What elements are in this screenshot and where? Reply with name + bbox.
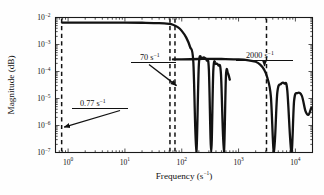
chart-canvas: 10010110210310410−210−310−410−510−610−7F…: [0, 0, 324, 195]
y-tick-label-3: 10−5: [37, 93, 51, 103]
y-tick-exponent: −3: [45, 39, 51, 45]
x-tick-label-2: 102: [177, 156, 188, 166]
x-tick-label-3: 103: [233, 156, 244, 166]
annotation-077-exponent: −1: [100, 98, 106, 104]
y-tick-label-5: 10−7: [37, 147, 51, 157]
x-tick-exponent: 0: [71, 156, 74, 162]
x-tick-exponent: 3: [241, 156, 244, 162]
annotation-70-exponent: −1: [153, 52, 159, 58]
x-tick-exponent: 2: [184, 156, 187, 162]
plot-frame: [56, 18, 313, 153]
annotation-2000-exponent: −1: [268, 50, 274, 56]
y-tick-exponent: −6: [45, 120, 51, 126]
x-axis-title: Frequency (s−1): [156, 170, 213, 181]
x-axis-title-tail: ): [209, 171, 212, 181]
x-tick-label-1: 101: [120, 156, 131, 166]
bode-magnitude-figure: 10010110210310410−210−310−410−510−610−7F…: [0, 0, 324, 195]
y-tick-label-4: 10−6: [37, 120, 51, 130]
y-tick-exponent: −4: [45, 66, 51, 72]
x-tick-exponent: 4: [298, 156, 301, 162]
y-tick-label-1: 10−3: [37, 39, 51, 49]
x-tick-label-0: 100: [63, 156, 74, 166]
y-axis-title: Magnitude (dB): [6, 56, 16, 115]
x-tick-label-4: 104: [290, 156, 301, 166]
y-tick-label-0: 10−2: [37, 12, 51, 22]
y-tick-exponent: −2: [45, 12, 51, 18]
y-tick-exponent: −7: [45, 147, 51, 153]
x-tick-exponent: 1: [127, 156, 130, 162]
y-tick-exponent: −5: [45, 93, 51, 99]
y-tick-label-2: 10−4: [37, 66, 51, 76]
